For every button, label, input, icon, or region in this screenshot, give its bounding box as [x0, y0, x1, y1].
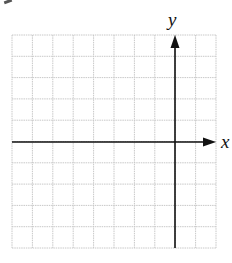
x-axis-arrow-icon	[203, 138, 216, 147]
y-axis-arrow-icon	[171, 35, 180, 48]
coordinate-plane: x y	[0, 0, 232, 263]
y-axis-label: y	[166, 9, 177, 30]
x-axis-label: x	[220, 131, 230, 152]
